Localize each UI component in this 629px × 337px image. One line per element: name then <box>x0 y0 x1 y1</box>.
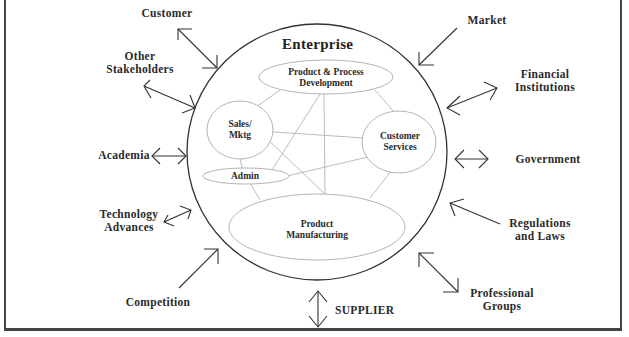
financial-label: Financial Institutions <box>505 68 585 94</box>
customer-label: Customer <box>132 7 202 20</box>
other-stakeholders-arrow-icon <box>144 80 195 113</box>
supplier-label: SUPPLIER <box>335 304 400 317</box>
professional-arrow-icon <box>419 253 458 292</box>
government-arrow-icon <box>455 150 488 168</box>
other-stakeholders-label: Other Stakeholders <box>100 50 180 76</box>
cs-label: Customer Services <box>365 131 435 153</box>
academia-label: Academia <box>94 149 154 162</box>
regulations-arrow-icon <box>450 199 500 224</box>
professional-label: Professional Groups <box>462 287 542 313</box>
academia-arrow-icon <box>152 148 186 164</box>
admin-label: Admin <box>220 171 270 182</box>
supplier-arrow-icon <box>309 291 327 327</box>
enterprise-title: Enterprise <box>282 36 353 53</box>
sales-label: Sales/ Mktg <box>215 119 265 141</box>
pm-label: Product Manufacturing <box>265 219 369 241</box>
customer-arrow-icon <box>178 29 217 68</box>
financial-arrow-icon <box>447 82 497 115</box>
market-label: Market <box>462 14 512 27</box>
competition-arrow-icon <box>179 249 218 288</box>
technology-label: Technology Advances <box>96 208 162 234</box>
ppd-label: Product & Process Development <box>270 67 382 89</box>
technology-arrow-icon <box>164 206 191 226</box>
competition-label: Competition <box>118 296 198 309</box>
market-arrow-icon <box>419 28 457 65</box>
government-label: Government <box>508 153 588 166</box>
regulations-label: Regulations and Laws <box>500 217 580 243</box>
